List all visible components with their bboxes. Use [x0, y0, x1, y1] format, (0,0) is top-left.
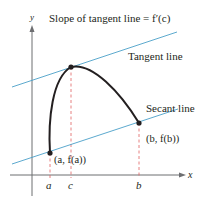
- tick-label-a: a: [46, 179, 52, 191]
- x-axis-arrow-icon: [179, 173, 186, 178]
- point-c: [68, 64, 73, 69]
- tick-label-b: b: [136, 179, 142, 191]
- point-b: [136, 120, 141, 125]
- slope-caption: Slope of tangent line = f′(c): [49, 13, 170, 24]
- point-a: [47, 150, 52, 155]
- y-axis-arrow-icon: [30, 25, 35, 32]
- y-axis-label: y: [29, 12, 34, 22]
- mean-value-theorem-diagram: y x a c b Slope of tangent line = f′(c) …: [0, 0, 207, 203]
- tick-label-c: c: [68, 179, 73, 191]
- secant-line-label: Secant line: [146, 103, 195, 114]
- point-a-label: (a, f(a)): [54, 155, 86, 166]
- tangent-line-label: Tangent line: [128, 51, 183, 62]
- function-curve: [50, 66, 139, 153]
- point-b-label: (b, f(b)): [146, 134, 179, 145]
- x-axis-label: x: [187, 169, 193, 180]
